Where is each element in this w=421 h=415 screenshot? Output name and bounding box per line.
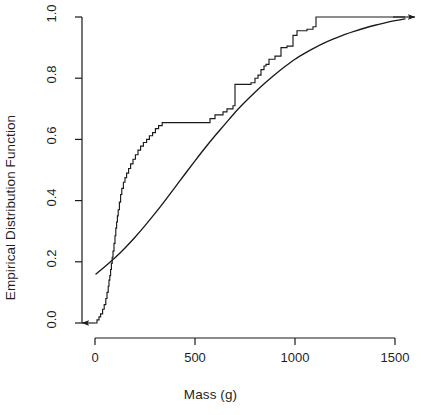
x-axis <box>95 338 395 345</box>
y-tick-label-1.0: 1.0 <box>44 0 59 34</box>
chart-figure: 1.0 0.8 0.6 0.4 0.2 0.0 0 500 1000 1500 … <box>0 0 421 415</box>
x-tick-label-1000: 1000 <box>281 350 310 365</box>
y-axis <box>75 17 82 323</box>
x-tick-label-1500: 1500 <box>381 350 410 365</box>
y-tick-label-0.2: 0.2 <box>44 238 59 278</box>
y-tick-label-0.8: 0.8 <box>44 55 59 95</box>
y-axis-title: Empirical Distribution Function <box>0 0 22 415</box>
y-tick-label-0.0: 0.0 <box>44 300 59 340</box>
ecdf-plot-svg <box>0 0 421 415</box>
y-tick-label-0.6: 0.6 <box>44 116 59 156</box>
ecdf-step-line <box>95 17 405 323</box>
x-axis-title: Mass (g) <box>0 387 421 402</box>
x-tick-label-0: 0 <box>91 350 98 365</box>
y-tick-label-0.4: 0.4 <box>44 177 59 217</box>
x-tick-label-500: 500 <box>184 350 206 365</box>
